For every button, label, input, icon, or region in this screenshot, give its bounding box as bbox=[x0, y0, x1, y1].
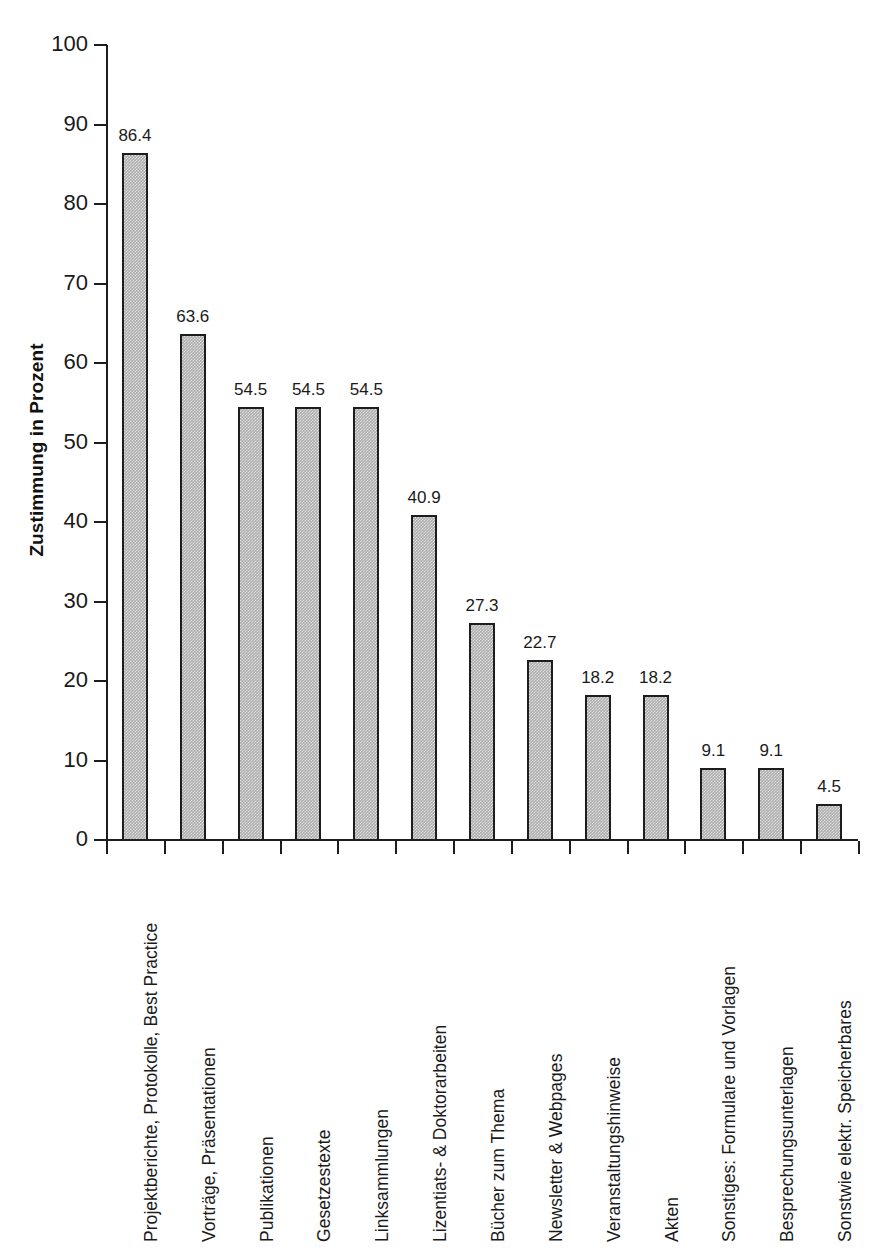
y-axis-tick bbox=[94, 362, 107, 364]
y-axis-tick-label: 50 bbox=[26, 431, 88, 453]
y-axis-tick-label-text: 20 bbox=[34, 669, 88, 691]
bar bbox=[238, 407, 264, 841]
bar bbox=[180, 334, 206, 841]
y-axis-tick-label: 0 bbox=[26, 828, 88, 850]
bar-value-label: 4.5 bbox=[789, 778, 869, 795]
x-axis-tick bbox=[337, 841, 339, 854]
y-axis-tick-label: 60 bbox=[26, 351, 88, 373]
bar-value-label: 63.6 bbox=[153, 308, 233, 325]
y-axis-tick bbox=[94, 124, 107, 126]
bar-value-label: 27.3 bbox=[442, 597, 522, 614]
x-axis-tick bbox=[280, 841, 282, 854]
bar-chart: Zustimmung in Prozent 010203040506070809… bbox=[0, 0, 882, 1252]
x-axis-category-label: Bücher zum Thema bbox=[489, 1089, 507, 1242]
bar bbox=[816, 804, 842, 841]
x-axis-category-label: Publikationen bbox=[258, 1136, 276, 1242]
bar bbox=[469, 623, 495, 841]
x-axis-category-label: Besprechungsunterlagen bbox=[778, 1046, 796, 1242]
x-axis-category-label: Sonstwie elektr. Speicherbares bbox=[836, 1000, 854, 1242]
bar bbox=[585, 695, 611, 841]
x-axis-category-label: Sonstiges: Formulare und Vorlagen bbox=[720, 966, 738, 1242]
y-axis-tick bbox=[94, 521, 107, 523]
x-axis-tick bbox=[511, 841, 513, 854]
x-axis-category-label: Projektberichte, Protokolle, Best Practi… bbox=[142, 923, 160, 1242]
y-axis-tick-label: 40 bbox=[26, 510, 88, 532]
bar bbox=[122, 153, 148, 841]
x-axis-category-label: Linksammlungen bbox=[373, 1109, 391, 1242]
y-axis-tick-label: 20 bbox=[26, 669, 88, 691]
x-axis-category-label: Vorträge, Präsentationen bbox=[200, 1047, 218, 1242]
y-axis-tick bbox=[94, 680, 107, 682]
y-axis-line bbox=[106, 45, 108, 842]
y-axis-tick-label-text: 0 bbox=[34, 828, 88, 850]
x-axis-tick bbox=[684, 841, 686, 854]
x-axis-category-label: Veranstaltungshinweise bbox=[605, 1057, 623, 1242]
y-axis-tick bbox=[94, 283, 107, 285]
bar-value-label: 54.5 bbox=[326, 381, 406, 398]
bar bbox=[700, 768, 726, 841]
x-axis-category-label: Akten bbox=[663, 1197, 681, 1242]
y-axis-tick-label-text: 30 bbox=[34, 590, 88, 612]
x-axis-tick bbox=[800, 841, 802, 854]
x-axis-tick bbox=[164, 841, 166, 854]
x-axis-tick bbox=[742, 841, 744, 854]
y-axis-tick-label-text: 70 bbox=[34, 272, 88, 294]
bar bbox=[643, 695, 669, 841]
y-axis-tick-label: 30 bbox=[26, 590, 88, 612]
y-axis-tick-label-text: 10 bbox=[34, 749, 88, 771]
y-axis-tick bbox=[94, 203, 107, 205]
bar-value-label: 18.2 bbox=[616, 669, 696, 686]
y-axis-tick-label-text: 40 bbox=[34, 510, 88, 532]
y-axis-tick bbox=[94, 601, 107, 603]
x-axis-tick bbox=[627, 841, 629, 854]
bar bbox=[758, 768, 784, 841]
bar-value-label: 40.9 bbox=[384, 489, 464, 506]
x-axis-tick bbox=[395, 841, 397, 854]
x-axis-tick bbox=[569, 841, 571, 854]
y-axis-tick-label-text: 60 bbox=[34, 351, 88, 373]
y-axis-tick-label-text: 80 bbox=[34, 192, 88, 214]
bar bbox=[353, 407, 379, 841]
x-axis-category-label: Lizentiats- & Doktorarbeiten bbox=[431, 1025, 449, 1242]
bar bbox=[295, 407, 321, 841]
y-axis-tick-label: 80 bbox=[26, 192, 88, 214]
y-axis-tick bbox=[94, 760, 107, 762]
bar-value-label: 22.7 bbox=[500, 634, 580, 651]
y-axis-tick-label: 90 bbox=[26, 113, 88, 135]
x-axis-category-label: Gesetzestexte bbox=[315, 1129, 333, 1242]
bar bbox=[527, 660, 553, 841]
y-axis-tick-label-text: 100 bbox=[34, 33, 88, 55]
y-axis-tick bbox=[94, 44, 107, 46]
y-axis-tick-label-text: 50 bbox=[34, 431, 88, 453]
y-axis-tick bbox=[94, 442, 107, 444]
bar-value-label: 9.1 bbox=[731, 742, 811, 759]
bar-value-label: 86.4 bbox=[95, 127, 175, 144]
x-axis-category-label: Newsletter & Webpages bbox=[547, 1054, 565, 1242]
x-axis-tick bbox=[222, 841, 224, 854]
x-axis-tick bbox=[453, 841, 455, 854]
y-axis-tick-label: 10 bbox=[26, 749, 88, 771]
x-axis-tick bbox=[106, 841, 108, 854]
bar bbox=[411, 515, 437, 841]
x-axis-tick bbox=[858, 841, 860, 854]
y-axis-tick-label-text: 90 bbox=[34, 113, 88, 135]
y-axis-tick-label: 100 bbox=[26, 33, 88, 55]
y-axis-tick-label: 70 bbox=[26, 272, 88, 294]
